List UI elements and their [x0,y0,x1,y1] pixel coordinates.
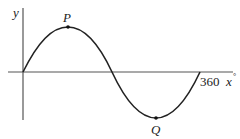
x-axis-label: x [225,74,232,89]
sine-diagram: y P Q 360 x ° [0,0,240,139]
point-q-label: Q [151,122,161,137]
diagram-canvas: y P Q 360 x ° [0,0,240,139]
point-p-label: P [62,10,71,25]
point-p-marker [66,25,70,29]
y-axis-label: y [11,5,19,20]
x-axis-unit: ° [233,72,236,81]
x-end-value: 360 [200,74,220,89]
point-q-marker [154,116,158,120]
